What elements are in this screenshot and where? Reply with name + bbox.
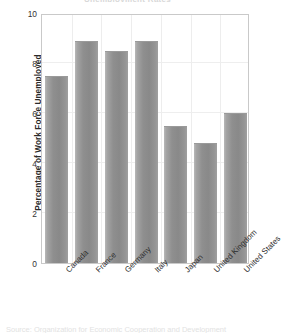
gridline-vertical (101, 15, 102, 263)
y-axis-tick-labels: 0246810 (9, 14, 37, 264)
bar-germany (105, 51, 128, 264)
plot-area (41, 14, 249, 264)
bar-france (75, 41, 98, 264)
gridline-vertical (161, 15, 162, 263)
chart-title-remnant: Unemployment Rates (0, 0, 255, 2)
x-axis-tick-labels: CanadaFranceGermanyItalyJapanUnited King… (41, 266, 249, 330)
bar-canada (45, 76, 68, 264)
x-tick-label-united-kingdom: United Kingdom (212, 268, 218, 274)
x-tick-label-italy: Italy (153, 268, 159, 274)
x-tick-label-canada: Canada (64, 268, 70, 274)
y-tick-label: 8 (11, 59, 37, 69)
y-tick-label: 2 (11, 209, 37, 219)
x-tick-label-germany: Germany (123, 268, 129, 274)
bar-united-kingdom (194, 143, 217, 263)
y-tick-label: 0 (11, 259, 37, 269)
y-tick-label: 4 (11, 159, 37, 169)
bar-italy (135, 41, 158, 264)
x-tick-label-japan: Japan (183, 268, 189, 274)
gridline-vertical (72, 15, 73, 263)
y-tick-label: 6 (11, 109, 37, 119)
gridline-vertical (191, 15, 192, 263)
x-tick-label-united-states: United States (242, 268, 248, 274)
bar-japan (164, 126, 187, 264)
gridline-vertical (220, 15, 221, 263)
gridline-vertical (131, 15, 132, 263)
chart-caption-remnant: Source: Organization for Economic Cooper… (0, 325, 255, 333)
x-tick-label-france: France (94, 268, 100, 274)
plot-inner (42, 15, 248, 263)
y-tick-label: 10 (11, 9, 37, 19)
